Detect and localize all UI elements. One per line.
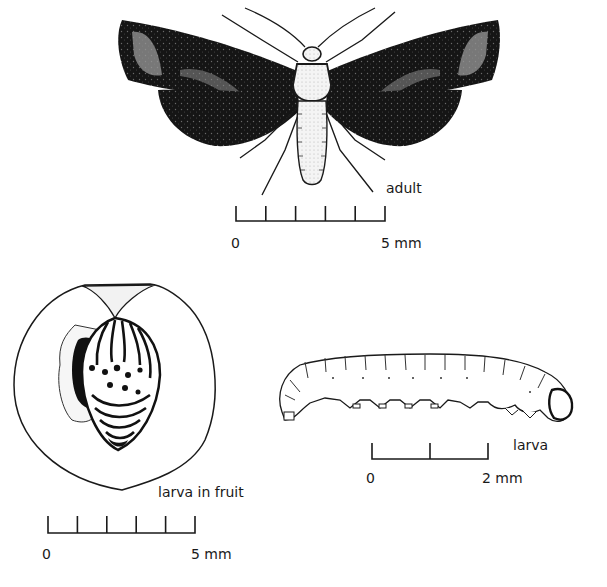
left-antenna (245, 8, 305, 47)
insect-illustration-plate: adult 0 5 mm (0, 0, 607, 587)
adult-moth-drawing (118, 8, 500, 195)
adult-scale-bar: 0 5 mm (231, 206, 422, 251)
fruit-scale-bar: 0 5 mm (42, 516, 232, 562)
larva-scale-end-label: 2 mm (482, 470, 523, 486)
left-hindwing (158, 89, 300, 146)
larva-in-fruit-label: larva in fruit (158, 484, 244, 500)
larva-in-fruit-drawing (14, 284, 215, 490)
larva-head-capsule (549, 389, 572, 419)
fruit-scale-start-label: 0 (42, 546, 51, 562)
adult-scale-end-label: 5 mm (381, 235, 422, 251)
moth-head (303, 47, 321, 61)
stem-cavity (82, 285, 155, 318)
adult-scale-start-label: 0 (231, 235, 240, 251)
larva-scale-start-label: 0 (366, 470, 375, 486)
larva-lateral-drawing (280, 354, 572, 421)
curled-larva (82, 318, 160, 450)
fruit-scale-end-label: 5 mm (191, 546, 232, 562)
right-hindwing (325, 89, 462, 146)
moth-thorax (293, 64, 331, 101)
adult-label: adult (386, 180, 422, 196)
larva-label: larva (513, 437, 548, 453)
larva-scale-bar: 0 2 mm (366, 443, 523, 486)
right-antenna (318, 8, 375, 47)
